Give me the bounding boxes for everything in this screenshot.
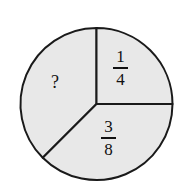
- fraction-numerator: 3: [104, 118, 113, 136]
- fraction-bar: [113, 67, 128, 69]
- pie-slice-one-quarter: [97, 28, 173, 104]
- fraction-numerator: 1: [116, 48, 125, 66]
- fraction-denominator: 8: [104, 140, 113, 158]
- pie-chart-svg: [0, 0, 186, 190]
- pie-chart-figure: 1 4 3 8 ?: [0, 0, 186, 190]
- slice-label-one-quarter: 1 4: [113, 48, 128, 88]
- fraction-bar: [101, 137, 116, 139]
- slice-label-three-eighths: 3 8: [101, 118, 116, 158]
- slice-label-unknown: ?: [51, 72, 59, 93]
- fraction-denominator: 4: [116, 70, 125, 88]
